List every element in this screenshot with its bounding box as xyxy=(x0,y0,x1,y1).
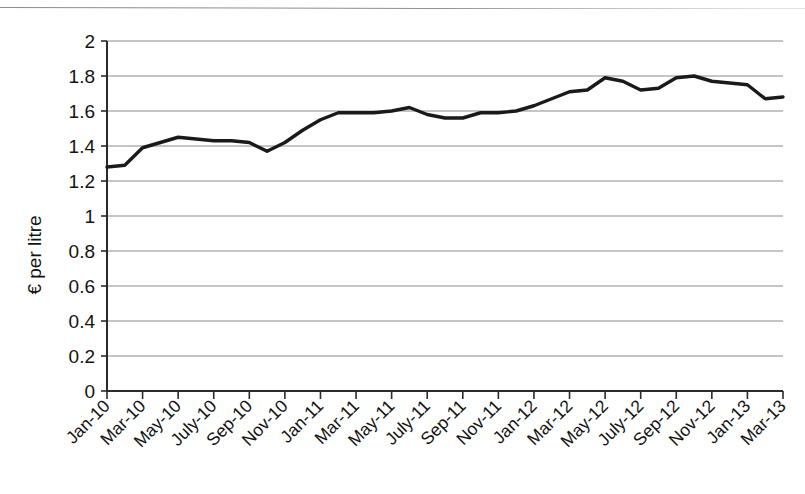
y-tick-label: 1.6 xyxy=(69,101,95,122)
chart-figure: 00.20.40.60.811.21.41.61.82 Jan-10Mar-10… xyxy=(0,0,805,494)
y-tick-label: 0.2 xyxy=(69,346,95,367)
x-tick-labels: Jan-10Mar-10May-10July-10Sep-10Nov-10Jan… xyxy=(62,396,790,452)
y-tick-label: 1.2 xyxy=(69,171,95,192)
y-tick-label: 0.4 xyxy=(69,311,96,332)
y-axis-title: € per litre xyxy=(24,215,45,294)
y-tick-label: 1.4 xyxy=(69,136,96,157)
y-tick-label: 0.8 xyxy=(69,241,95,262)
y-tick-label: 0.6 xyxy=(69,276,95,297)
line-chart: 00.20.40.60.811.21.41.61.82 Jan-10Mar-10… xyxy=(0,0,805,494)
y-tick-label: 2 xyxy=(84,31,95,52)
y-tick-label: 1.8 xyxy=(69,66,95,87)
y-tick-labels: 00.20.40.60.811.21.41.61.82 xyxy=(69,31,96,402)
grid-lines xyxy=(107,41,783,356)
y-tick-label: 1 xyxy=(84,206,95,227)
price-series-line xyxy=(107,76,783,167)
y-tick-label: 0 xyxy=(84,381,95,402)
